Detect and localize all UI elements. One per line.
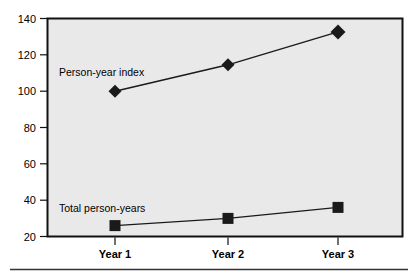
x-category-label-year-1: Year 1 [99, 248, 131, 260]
data-point-marker [333, 202, 344, 213]
chart-figure: 140 120 100 80 60 40 20 Year 1 Year 2 Ye… [0, 0, 418, 277]
y-tick-label-20: 20 [24, 231, 36, 243]
y-tick-label-80: 80 [24, 122, 36, 134]
data-point-marker [110, 220, 121, 231]
y-tick-label-60: 60 [24, 158, 36, 170]
y-tick-label-40: 40 [24, 194, 36, 206]
data-point-marker [223, 213, 234, 224]
y-axis-ticks [40, 19, 48, 237]
x-category-label-year-3: Year 3 [322, 248, 354, 260]
y-tick-label-140: 140 [18, 13, 36, 25]
line-chart: 140 120 100 80 60 40 20 Year 1 Year 2 Ye… [0, 0, 418, 277]
series-annotation-total-person-years: Total person-years [59, 202, 145, 214]
y-tick-label-100: 100 [18, 85, 36, 97]
y-tick-label-120: 120 [18, 49, 36, 61]
x-axis-ticks [115, 238, 338, 246]
x-category-label-year-2: Year 2 [212, 248, 244, 260]
series-annotation-person-year-index: Person-year index [59, 66, 145, 78]
